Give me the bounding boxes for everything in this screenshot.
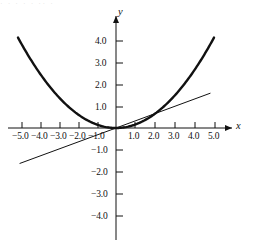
y-tick-label: 1.0 bbox=[95, 102, 106, 112]
x-axis-label: x bbox=[236, 120, 241, 131]
x-tick-label: −2.0 bbox=[69, 131, 85, 141]
y-axis-arrowhead bbox=[113, 16, 119, 23]
x-axis-arrowhead bbox=[225, 125, 232, 131]
coordinate-plane-plot bbox=[0, 0, 258, 246]
y-tick-label: −2.0 bbox=[91, 167, 107, 177]
graph-figure: · · · · · ·· · bbox=[0, 0, 258, 246]
y-axis-label: y bbox=[118, 6, 123, 17]
x-tick-label: 3.0 bbox=[168, 131, 179, 141]
y-tick-label: −3.0 bbox=[91, 189, 107, 199]
y-tick-label: −1.0 bbox=[91, 145, 107, 155]
y-tick-label: 4.0 bbox=[95, 36, 106, 46]
x-tick-label: −5.0 bbox=[12, 131, 28, 141]
x-tick-label: −3.0 bbox=[50, 131, 66, 141]
x-tick-label: −1.0 bbox=[88, 131, 104, 141]
x-tick-label: 4.0 bbox=[188, 131, 199, 141]
x-tick-label: 2.0 bbox=[148, 131, 159, 141]
x-tick-label: 5.0 bbox=[208, 131, 219, 141]
y-tick-label: −4.0 bbox=[91, 211, 107, 221]
x-tick-label: 1.0 bbox=[128, 131, 139, 141]
x-tick-label: −4.0 bbox=[31, 131, 47, 141]
y-tick-label: 2.0 bbox=[95, 80, 106, 90]
y-tick-label: 3.0 bbox=[95, 58, 106, 68]
